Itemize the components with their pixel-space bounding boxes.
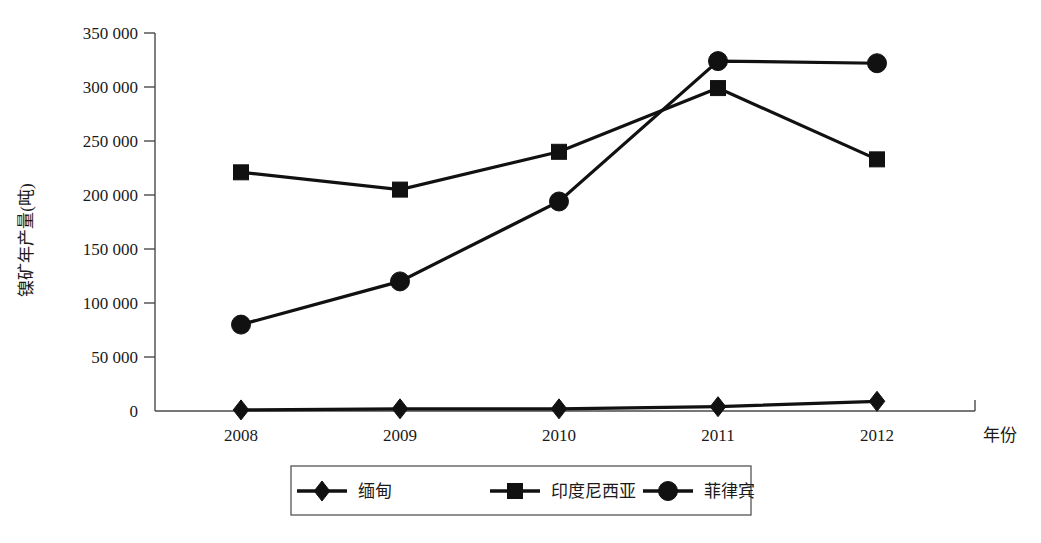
data-point-marker-square [870, 152, 885, 167]
data-point-marker-square [552, 144, 567, 159]
data-point-marker-circle [391, 272, 410, 291]
y-axis-tick-label: 200 000 [83, 186, 138, 205]
data-point-marker-circle [232, 315, 251, 334]
legend-label: 印度尼西亚 [551, 482, 636, 501]
y-axis-tick-label: 300 000 [83, 78, 138, 97]
data-point-marker-square [393, 182, 408, 197]
line-chart: 镍矿年产量(吨) 350 000 300 000 250 000 200 000… [0, 0, 1041, 543]
series-group [232, 52, 887, 335]
legend-label: 缅甸 [358, 482, 392, 501]
data-point-marker-diamond [551, 399, 567, 419]
data-point-marker-diamond [392, 399, 408, 419]
plot-series-layer [232, 52, 887, 420]
data-point-marker-circle [868, 54, 887, 73]
x-axis-title: 年份 [983, 426, 1017, 445]
x-axis-tick-label: 2010 [542, 426, 576, 445]
legend-item[interactable]: 印度尼西亚 [490, 482, 636, 501]
y-axis-tick-label: 50 000 [91, 348, 138, 367]
x-axis-tick-label: 2008 [224, 426, 258, 445]
series-line [241, 88, 877, 190]
legend-marker-circle [659, 482, 678, 501]
y-axis-tick-label: 350 000 [83, 24, 138, 43]
y-axis-title: 镍矿年产量(吨) [17, 183, 36, 296]
data-point-marker-circle [709, 52, 728, 71]
x-axis-tick-label: 2012 [860, 426, 894, 445]
series-group [233, 391, 885, 420]
legend-marker-square [508, 484, 523, 499]
legend-label: 菲律宾 [704, 482, 755, 501]
data-point-marker-circle [550, 192, 569, 211]
y-axis-tick-label: 250 000 [83, 132, 138, 151]
data-point-marker-diamond [710, 397, 726, 417]
x-axis-tick-label: 2009 [383, 426, 417, 445]
data-point-marker-diamond [233, 400, 249, 420]
y-axis-tick-label: 0 [130, 402, 139, 421]
data-point-marker-square [711, 81, 726, 96]
y-axis-tick-label: 150 000 [83, 240, 138, 259]
data-point-marker-diamond [869, 391, 885, 411]
series-group [234, 81, 885, 198]
x-axis-tick-label: 2011 [701, 426, 734, 445]
data-point-marker-square [234, 165, 249, 180]
chart-container: 镍矿年产量(吨) 350 000 300 000 250 000 200 000… [0, 0, 1041, 543]
y-axis-tick-label: 100 000 [83, 294, 138, 313]
